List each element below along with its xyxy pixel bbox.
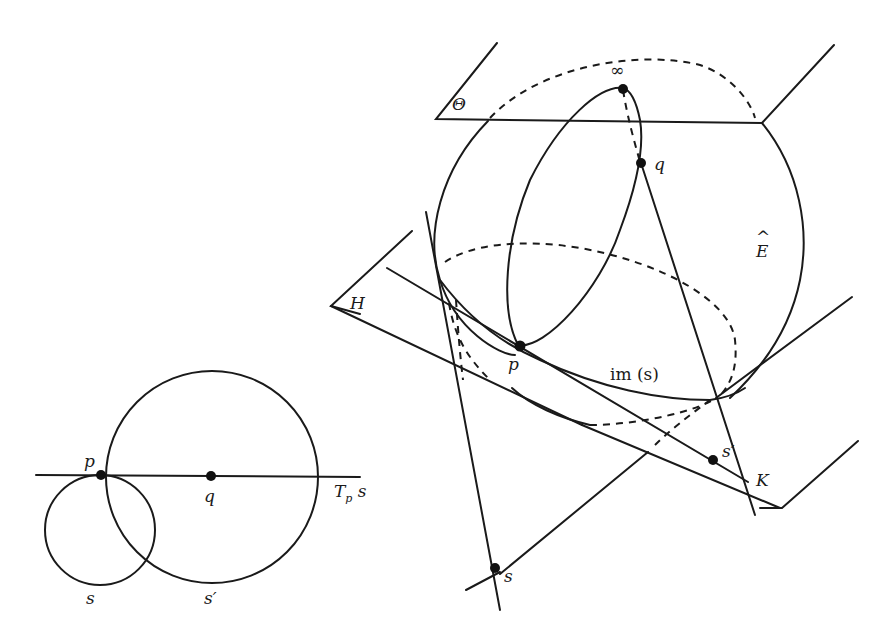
- label-s-prime-right: s′: [722, 441, 735, 461]
- infinity-to-q-dashed: [623, 90, 640, 162]
- lens-lower: [512, 388, 590, 425]
- plane-edge-dashed: [655, 400, 710, 445]
- label-plane-h: H: [349, 293, 366, 313]
- label-s: s: [86, 588, 95, 608]
- label-s-prime: s′: [204, 588, 217, 608]
- plane-h-right-edge: [716, 297, 852, 398]
- point-s-prime: [708, 455, 718, 465]
- label-im-s: im (s): [610, 364, 659, 384]
- point-s: [490, 563, 500, 573]
- point-p: [515, 341, 526, 352]
- right-diagram: Θ ∞ q E ^ H p im (s) s′ K s: [331, 43, 858, 610]
- plane-h: [331, 231, 858, 508]
- label-p: p: [84, 451, 95, 471]
- plane-theta: [436, 43, 834, 123]
- label-sphere-hat: ^: [756, 227, 770, 247]
- label-q-right: q: [654, 154, 665, 174]
- label-q: q: [204, 486, 215, 506]
- label-infinity: ∞: [610, 60, 624, 80]
- label-p-right: p: [508, 354, 519, 374]
- line-k: [387, 268, 748, 482]
- circle-s: [45, 475, 155, 585]
- point-p: [96, 470, 106, 480]
- line-q-s-prime: [641, 163, 755, 515]
- plane-h-lower-edge: [500, 452, 648, 574]
- point-infinity: [618, 84, 628, 94]
- label-k: K: [755, 470, 770, 490]
- circle-through-infinity: [507, 88, 641, 345]
- line-through-s: [426, 212, 500, 610]
- left-diagram: p q Tp s s s′: [36, 371, 367, 608]
- label-s-right: s: [504, 566, 513, 586]
- point-q: [206, 471, 216, 481]
- label-theta: Θ: [452, 94, 466, 114]
- lens-dashed-right: [590, 398, 716, 425]
- figure-canvas: p q Tp s s s′: [0, 0, 890, 642]
- point-q: [636, 158, 646, 168]
- label-tangent: Tp s: [334, 481, 367, 505]
